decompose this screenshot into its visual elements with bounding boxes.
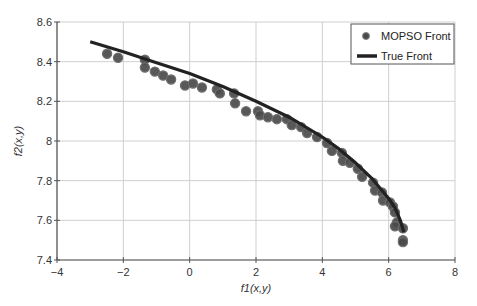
data-point	[188, 79, 197, 88]
data-point	[140, 63, 149, 72]
true-front-series	[90, 42, 404, 232]
mopso-front-series	[102, 49, 407, 247]
data-point	[166, 75, 175, 84]
scatter-chart: −4−202468 7.47.67.888.28.48.6 f1(x,y) f2…	[0, 0, 477, 306]
y-tick-label: 7.8	[37, 175, 52, 187]
data-point	[215, 89, 224, 98]
x-tick-label: −4	[51, 266, 64, 278]
x-axis-label: f1(x,y)	[241, 282, 272, 294]
x-tick-label: 2	[253, 266, 259, 278]
x-tick-label: 6	[386, 266, 392, 278]
y-tick-label: 8.6	[37, 16, 52, 28]
x-tick-label: 8	[452, 266, 458, 278]
legend: MOPSO Front True Front	[351, 24, 454, 64]
data-point	[113, 53, 122, 62]
y-tick-label: 8	[46, 135, 52, 147]
y-tick-label: 8.4	[37, 56, 52, 68]
x-tick-label: 4	[319, 266, 325, 278]
x-tick-label: −2	[117, 266, 130, 278]
data-point	[102, 49, 111, 58]
data-point	[398, 238, 407, 247]
y-axis-label: f2(x,y)	[12, 125, 24, 156]
data-point	[263, 113, 272, 122]
data-point	[197, 83, 206, 92]
y-tick-label: 8.2	[37, 95, 52, 107]
true-front-line	[90, 42, 404, 232]
legend-marker-icon	[363, 33, 370, 40]
legend-label-true-front: True Front	[381, 50, 432, 62]
data-point	[272, 115, 281, 124]
data-point	[231, 99, 240, 108]
y-tick-label: 7.4	[37, 254, 52, 266]
y-tick-label: 7.6	[37, 214, 52, 226]
x-tick-label: 0	[187, 266, 193, 278]
data-point	[241, 107, 250, 116]
legend-label-mopso: MOPSO Front	[381, 30, 451, 42]
